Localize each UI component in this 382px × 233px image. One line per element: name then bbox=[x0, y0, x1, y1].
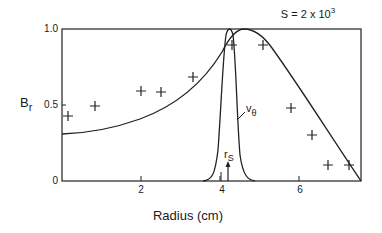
rs-marker: rS bbox=[221, 148, 234, 181]
y-tick-label: 1.0 bbox=[44, 23, 58, 34]
data-point bbox=[156, 87, 166, 97]
x-tick-label: 2 bbox=[138, 184, 144, 195]
rs-label: rS bbox=[224, 148, 234, 163]
data-point bbox=[63, 111, 73, 121]
x-tick-label: 6 bbox=[297, 184, 303, 195]
data-point bbox=[188, 72, 198, 82]
y-axis-label: Br bbox=[20, 95, 33, 113]
parameter-annotation: S = 2 x 103 bbox=[281, 6, 336, 20]
v-theta-label: vθ bbox=[246, 102, 257, 118]
chart: 0 0.5 1.0 Br 2 4 6 Radius (cm) S = 2 x 1… bbox=[0, 0, 382, 233]
x-axis-label: Radius (cm) bbox=[153, 208, 223, 223]
plot-frame bbox=[62, 29, 361, 181]
x-axis: 2 4 6 Radius (cm) bbox=[138, 176, 303, 223]
y-axis: 0 0.5 1.0 Br bbox=[20, 23, 66, 186]
y-tick-label: 0.5 bbox=[44, 99, 58, 110]
x-tick-label: 4 bbox=[219, 184, 225, 195]
data-point bbox=[136, 86, 146, 96]
y-tick-label: 0 bbox=[52, 175, 58, 186]
data-point bbox=[90, 101, 100, 111]
data-point bbox=[286, 103, 296, 113]
br-calculated-curve bbox=[62, 29, 361, 181]
data-point bbox=[307, 130, 317, 140]
data-point bbox=[323, 160, 333, 170]
